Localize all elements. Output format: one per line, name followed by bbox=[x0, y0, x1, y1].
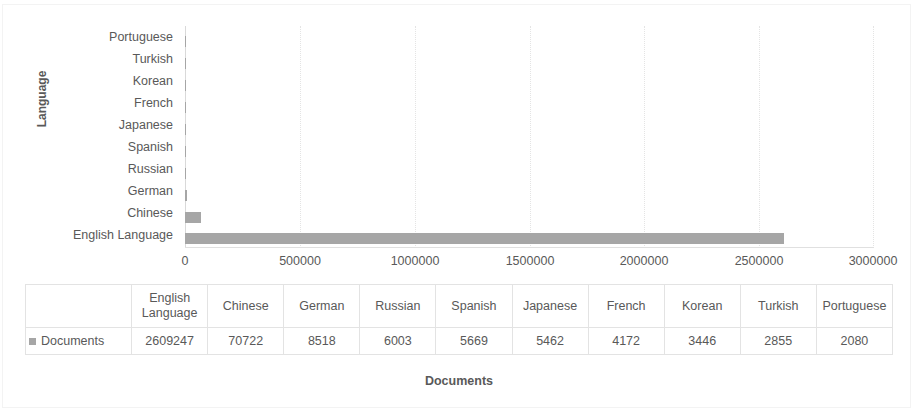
data-table: English Language Chinese German Russian … bbox=[25, 284, 893, 355]
bar-german[interactable] bbox=[185, 190, 187, 201]
y-axis-label-chinese: Chinese bbox=[127, 206, 173, 220]
y-axis-label-spanish: Spanish bbox=[128, 140, 173, 154]
bar-row-portuguese bbox=[185, 30, 874, 52]
table-cell-portuguese: 2080 bbox=[816, 328, 892, 355]
table-header-japanese: Japanese bbox=[512, 285, 588, 328]
table-cell-russian: 6003 bbox=[360, 328, 436, 355]
table-header-english-language: English Language bbox=[132, 285, 208, 328]
x-tick-0: 0 bbox=[182, 254, 189, 268]
y-axis-label-french: French bbox=[134, 96, 173, 110]
legend-label: Documents bbox=[41, 334, 104, 349]
table-header-spanish: Spanish bbox=[436, 285, 512, 328]
square-swatch-icon bbox=[29, 338, 36, 345]
bar-row-korean bbox=[185, 74, 874, 96]
bar-row-german bbox=[185, 184, 874, 206]
bar-portuguese[interactable] bbox=[185, 36, 186, 47]
table-header-turkish: Turkish bbox=[740, 285, 816, 328]
x-axis-tick-labels: 0 500000 1000000 1500000 2000000 2500000… bbox=[185, 254, 874, 272]
table-cell-english-language: 2609247 bbox=[132, 328, 208, 355]
table-cell-german: 8518 bbox=[284, 328, 360, 355]
plot-area bbox=[185, 26, 874, 248]
y-axis-label-german: German bbox=[128, 184, 173, 198]
bar-row-spanish bbox=[185, 140, 874, 162]
bar-chinese[interactable] bbox=[185, 212, 201, 223]
bar-korean[interactable] bbox=[185, 80, 186, 91]
chart-container: Language Portuguese Turkish Korean Frenc… bbox=[0, 0, 915, 415]
table-cell-french: 4172 bbox=[588, 328, 664, 355]
bar-turkish[interactable] bbox=[185, 58, 186, 69]
table-header-portuguese: Portuguese bbox=[816, 285, 892, 328]
table-header-chinese: Chinese bbox=[208, 285, 284, 328]
data-table-container: English Language Chinese German Russian … bbox=[25, 284, 893, 355]
x-tick-3000000: 3000000 bbox=[849, 254, 898, 268]
x-tick-1500000: 1500000 bbox=[506, 254, 555, 268]
bar-russian[interactable] bbox=[185, 168, 186, 179]
bar-french[interactable] bbox=[185, 102, 186, 113]
table-header-row: English Language Chinese German Russian … bbox=[26, 285, 893, 328]
y-axis-category-labels: Portuguese Turkish Korean French Japanes… bbox=[40, 26, 179, 248]
legend-documents[interactable]: Documents bbox=[26, 328, 132, 355]
bar-row-english-language bbox=[185, 228, 874, 248]
table-header-korean: Korean bbox=[664, 285, 740, 328]
y-axis-label-russian: Russian bbox=[128, 162, 173, 176]
x-tick-2500000: 2500000 bbox=[735, 254, 784, 268]
bar-row-chinese bbox=[185, 206, 874, 228]
y-axis-label-japanese: Japanese bbox=[119, 118, 173, 132]
bar-japanese[interactable] bbox=[185, 124, 186, 135]
x-tick-2000000: 2000000 bbox=[620, 254, 669, 268]
bar-row-japanese bbox=[185, 118, 874, 140]
y-axis-label-english-language: English Language bbox=[73, 228, 173, 242]
table-header-german: German bbox=[284, 285, 360, 328]
x-tick-500000: 500000 bbox=[279, 254, 321, 268]
table-row: Documents 2609247 70722 8518 6003 5669 5… bbox=[26, 328, 893, 355]
bar-row-russian bbox=[185, 162, 874, 184]
table-corner-cell bbox=[26, 285, 132, 328]
y-axis-label-korean: Korean bbox=[133, 74, 173, 88]
table-cell-turkish: 2855 bbox=[740, 328, 816, 355]
y-axis-label-turkish: Turkish bbox=[132, 52, 173, 66]
x-axis-title: Documents bbox=[25, 374, 893, 388]
table-cell-japanese: 5462 bbox=[512, 328, 588, 355]
table-cell-chinese: 70722 bbox=[208, 328, 284, 355]
table-cell-spanish: 5669 bbox=[436, 328, 512, 355]
table-cell-korean: 3446 bbox=[664, 328, 740, 355]
bar-spanish[interactable] bbox=[185, 146, 186, 157]
x-tick-1000000: 1000000 bbox=[391, 254, 440, 268]
bar-series-documents bbox=[185, 26, 874, 248]
table-header-french: French bbox=[588, 285, 664, 328]
y-axis-label-portuguese: Portuguese bbox=[109, 30, 173, 44]
bar-row-turkish bbox=[185, 52, 874, 74]
table-header-russian: Russian bbox=[360, 285, 436, 328]
bar-english-language[interactable] bbox=[185, 233, 784, 244]
bar-row-french bbox=[185, 96, 874, 118]
